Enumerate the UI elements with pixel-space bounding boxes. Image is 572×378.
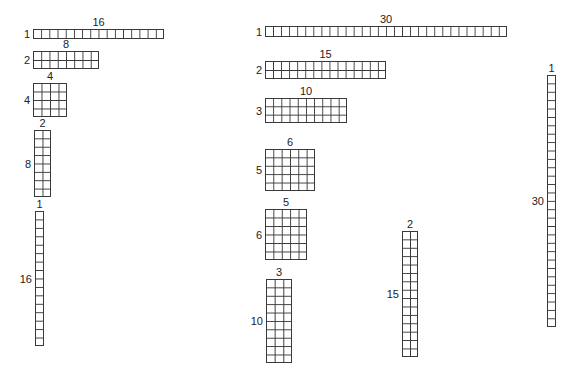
row-count-label: 5 bbox=[256, 165, 262, 176]
column-count-label: 6 bbox=[287, 137, 293, 148]
array-3x10 bbox=[265, 98, 347, 123]
column-count-label: 2 bbox=[407, 219, 413, 230]
row-count-label: 6 bbox=[256, 229, 262, 240]
column-count-label: 1 bbox=[36, 199, 42, 210]
row-count-label: 10 bbox=[251, 316, 263, 327]
array-30x1 bbox=[547, 75, 556, 327]
array-2x15 bbox=[265, 61, 386, 79]
array-10x3 bbox=[266, 279, 292, 363]
row-count-label: 2 bbox=[256, 65, 262, 76]
column-count-label: 4 bbox=[47, 71, 53, 82]
array-1x16 bbox=[33, 29, 164, 39]
array-6x5 bbox=[265, 209, 307, 260]
column-count-label: 8 bbox=[63, 39, 69, 50]
row-count-label: 1 bbox=[24, 29, 30, 40]
array-16x1 bbox=[35, 211, 44, 346]
row-count-label: 1 bbox=[256, 26, 262, 37]
column-count-label: 1 bbox=[548, 63, 554, 74]
row-count-label: 15 bbox=[387, 289, 399, 300]
factor-arrays-diagram: 1618244281163011521036556310215130 bbox=[0, 0, 572, 378]
column-count-label: 2 bbox=[39, 118, 45, 129]
array-8x2 bbox=[34, 130, 51, 197]
array-1x30 bbox=[265, 26, 507, 37]
row-count-label: 30 bbox=[532, 196, 544, 207]
column-count-label: 30 bbox=[380, 14, 392, 25]
row-count-label: 16 bbox=[20, 273, 32, 284]
column-count-label: 10 bbox=[300, 86, 312, 97]
array-4x4 bbox=[33, 83, 67, 117]
column-count-label: 5 bbox=[283, 197, 289, 208]
column-count-label: 16 bbox=[92, 17, 104, 28]
row-count-label: 2 bbox=[24, 55, 30, 66]
row-count-label: 8 bbox=[25, 158, 31, 169]
row-count-label: 4 bbox=[24, 95, 30, 106]
row-count-label: 3 bbox=[256, 105, 262, 116]
column-count-label: 15 bbox=[319, 49, 331, 60]
column-count-label: 3 bbox=[276, 267, 282, 278]
array-5x6 bbox=[265, 149, 315, 191]
array-15x2 bbox=[402, 231, 418, 357]
array-2x8 bbox=[33, 51, 99, 69]
